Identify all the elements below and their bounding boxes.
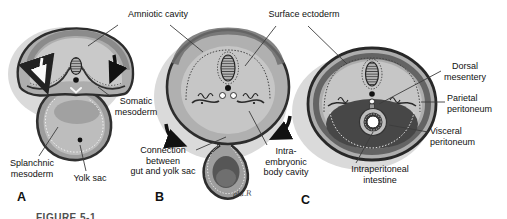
label-intraembryonic-body-cavity: Intra- embryonic body cavity <box>249 146 323 178</box>
label-splanchnic-mesoderm: Splanchnic mesoderm <box>1 158 63 179</box>
panel-letter-a: A <box>17 190 26 204</box>
label-dorsal-mesentery: Dorsal mesentery <box>432 61 498 82</box>
embryo-cross-sections-illustration <box>0 0 507 219</box>
label-intraperitoneal-intestine: Intraperitoneal intestine <box>336 164 424 185</box>
artist-signature: alu.R <box>233 189 252 198</box>
panel-c-aorta <box>369 99 374 104</box>
embryology-figure: Amniotic cavity Surface ectoderm Somatic… <box>0 0 507 219</box>
figure-caption: FIGURE 5-1 <box>36 212 96 219</box>
panel-a-notochord-dot <box>73 77 79 83</box>
panel-a-yolk-shade <box>54 100 100 124</box>
panel-b-aorta-left <box>220 93 226 99</box>
panel-b-yolk-sac-shade <box>216 169 236 187</box>
panel-b-aorta-right <box>231 93 237 99</box>
panel-c-notochord-dot <box>369 91 375 97</box>
label-somatic-mesoderm: Somatic mesoderm <box>103 96 169 117</box>
label-parietal-peritoneum: Parietal peritoneum <box>447 93 505 114</box>
panel-letter-b: B <box>155 190 164 204</box>
panel-b-notochord-dot <box>225 85 231 91</box>
panel-letter-c: C <box>301 193 310 207</box>
label-amniotic-cavity: Amniotic cavity <box>112 9 204 20</box>
label-yolk-sac: Yolk sac <box>65 173 115 184</box>
panel-c-gut-lumen <box>367 116 379 128</box>
label-surface-ectoderm: Surface ectoderm <box>253 9 355 20</box>
panel-b-speck <box>201 102 203 104</box>
label-connection-gut-yolk: Connection between gut and yolk sac <box>121 145 205 177</box>
panel-a-yolk-dot <box>78 138 83 143</box>
panel-a-neural-plate-hatch <box>71 58 82 75</box>
panel-b-neural-tube-hatch <box>221 55 235 81</box>
label-visceral-peritoneum: Visceral peritoneum <box>430 126 490 147</box>
leader-ectoderm-to-c <box>308 26 347 64</box>
panel-b-speck <box>253 102 255 104</box>
panel-c-neural-tube-hatch <box>366 62 379 86</box>
panel-a-drawing <box>8 27 133 160</box>
